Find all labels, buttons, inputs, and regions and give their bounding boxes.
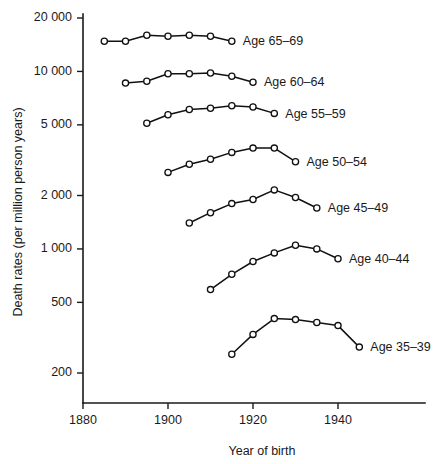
x-axis-tick-label: 1900	[154, 413, 182, 427]
data-point-marker	[207, 210, 213, 216]
data-point-marker	[229, 103, 235, 109]
chart-figure: 2005001 0002 0005 00010 00020 000 188019…	[0, 0, 441, 464]
data-point-marker	[186, 71, 192, 77]
data-point-marker	[144, 32, 150, 38]
series-label: Age 45–49	[328, 201, 389, 215]
y-axis-ticks	[77, 18, 83, 373]
series-1	[101, 32, 235, 44]
data-point-marker	[165, 71, 171, 77]
series-label: Age 40–44	[349, 252, 410, 266]
y-axis-tick-label: 20 000	[34, 10, 72, 24]
data-point-marker	[165, 112, 171, 118]
data-point-marker	[314, 246, 320, 252]
data-point-marker	[250, 104, 256, 110]
series-4	[165, 145, 299, 175]
data-point-marker	[271, 110, 277, 116]
series-label: Age 55–59	[285, 107, 346, 121]
data-point-marker	[229, 201, 235, 207]
data-point-marker	[229, 351, 235, 357]
x-axis-tick-labels: 1880190019201940	[69, 413, 352, 427]
series-5	[186, 187, 320, 226]
data-point-marker	[186, 32, 192, 38]
x-axis-tick-label: 1940	[324, 413, 352, 427]
data-point-marker	[250, 258, 256, 264]
data-point-marker	[229, 149, 235, 155]
data-point-marker	[186, 220, 192, 226]
data-point-marker	[292, 317, 298, 323]
data-point-marker	[314, 205, 320, 211]
series-label: Age 35–39	[370, 340, 431, 354]
data-point-marker	[229, 271, 235, 277]
data-point-marker	[144, 120, 150, 126]
data-point-marker	[207, 287, 213, 293]
y-axis-tick-label: 500	[51, 295, 72, 309]
data-point-marker	[250, 79, 256, 85]
data-point-marker	[250, 145, 256, 151]
y-axis-tick-label: 1 000	[41, 241, 72, 255]
y-axis-title: Death rates (per million person years)	[11, 107, 25, 316]
data-point-marker	[335, 323, 341, 329]
data-point-marker	[292, 242, 298, 248]
data-point-marker	[271, 250, 277, 256]
y-axis-tick-label: 10 000	[34, 64, 72, 78]
chart-canvas: 2005001 0002 0005 00010 00020 000 188019…	[0, 0, 441, 464]
data-point-marker	[122, 38, 128, 44]
data-point-marker	[122, 80, 128, 86]
data-point-marker	[271, 316, 277, 322]
x-axis-ticks	[83, 403, 338, 409]
data-point-marker	[207, 156, 213, 162]
data-point-marker	[292, 194, 298, 200]
series-3	[144, 103, 278, 127]
data-point-marker	[186, 161, 192, 167]
series-6	[207, 242, 341, 293]
y-axis-tick-labels: 2005001 0002 0005 00010 00020 000	[34, 10, 72, 379]
data-point-marker	[314, 319, 320, 325]
data-point-marker	[165, 169, 171, 175]
data-point-marker	[250, 196, 256, 202]
series-7	[229, 316, 363, 358]
data-point-marker	[229, 73, 235, 79]
data-point-marker	[186, 106, 192, 112]
data-point-marker	[229, 38, 235, 44]
series-label: Age 60–64	[264, 75, 325, 89]
series-label: Age 50–54	[307, 155, 368, 169]
data-point-marker	[271, 187, 277, 193]
data-point-marker	[207, 105, 213, 111]
data-point-marker	[144, 78, 150, 84]
series-label: Age 65–69	[243, 34, 304, 48]
x-axis-title: Year of birth	[229, 444, 296, 458]
y-axis-tick-label: 200	[51, 365, 72, 379]
data-point-marker	[292, 159, 298, 165]
y-axis-tick-label: 2 000	[41, 188, 72, 202]
data-point-marker	[207, 33, 213, 39]
x-axis-tick-label: 1920	[239, 413, 267, 427]
x-axis-tick-label: 1880	[69, 413, 97, 427]
data-point-marker	[101, 38, 107, 44]
data-point-marker	[207, 70, 213, 76]
data-point-marker	[335, 256, 341, 262]
series-2	[122, 70, 256, 86]
data-point-marker	[356, 344, 362, 350]
y-axis-tick-label: 5 000	[41, 117, 72, 131]
series-labels-group: Age 65–69Age 60–64Age 55–59Age 50–54Age …	[243, 34, 431, 354]
data-point-marker	[271, 145, 277, 151]
data-point-marker	[250, 331, 256, 337]
data-point-marker	[165, 33, 171, 39]
